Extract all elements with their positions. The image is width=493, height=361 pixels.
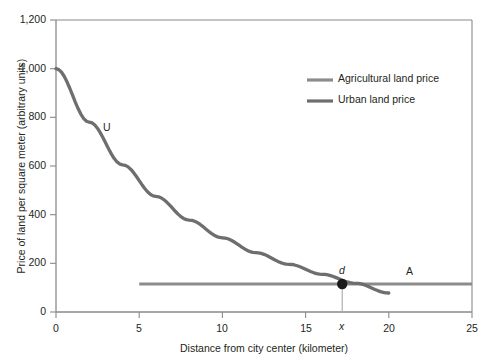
x-tick-label-10: 10 bbox=[207, 322, 237, 334]
x-axis-title: Distance from city center (kilometer) bbox=[56, 342, 472, 354]
x-tick-label-5: 5 bbox=[124, 322, 154, 334]
region-label-agricultural: A bbox=[406, 265, 413, 277]
y-tick-label-1200: 1,200 bbox=[2, 13, 46, 25]
x-tick-label-0: 0 bbox=[41, 322, 71, 334]
y-tick-label-400: 400 bbox=[2, 208, 46, 220]
y-tick-label-1000: 1,000 bbox=[2, 62, 46, 74]
legend-swatch-urban bbox=[307, 99, 333, 103]
legend-label-agricultural: Agricultural land price bbox=[338, 72, 439, 84]
legend-swatch-agricultural bbox=[307, 78, 333, 82]
intersection-marker-d bbox=[337, 279, 347, 289]
point-label-d: d bbox=[339, 264, 345, 276]
y-tick-label-600: 600 bbox=[2, 159, 46, 171]
y-axis-ticks bbox=[50, 20, 56, 312]
y-tick-label-200: 200 bbox=[2, 256, 46, 268]
x-axis-ticks bbox=[56, 312, 472, 318]
x-tick-label-15: 15 bbox=[291, 322, 321, 334]
y-tick-label-0: 0 bbox=[2, 305, 46, 317]
chart-canvas bbox=[0, 0, 493, 361]
y-tick-label-800: 800 bbox=[2, 110, 46, 122]
curve-label-urban: U bbox=[103, 121, 111, 133]
x-value-label: x bbox=[339, 320, 344, 332]
legend-label-urban: Urban land price bbox=[338, 93, 415, 105]
x-tick-label-25: 25 bbox=[457, 322, 487, 334]
x-tick-label-20: 20 bbox=[374, 322, 404, 334]
